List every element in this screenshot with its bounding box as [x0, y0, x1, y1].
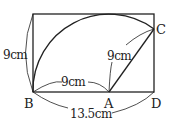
measure-BA: 9cm: [61, 75, 86, 89]
dimension-BD-right: [112, 92, 154, 113]
label-D: D: [151, 96, 161, 111]
rectangle: [33, 14, 154, 92]
measure-BD: 13.5cm: [70, 107, 113, 121]
measure-AC: 9cm: [107, 49, 132, 63]
measure-left-side: 9cm: [3, 48, 28, 62]
dimension-BD-left: [33, 92, 68, 108]
dimension-BA-left: [33, 82, 62, 92]
label-C: C: [156, 22, 166, 37]
label-B: B: [24, 96, 34, 111]
geometry-diagram: B A D C 9cm 9cm 9cm 13.5cm: [0, 0, 174, 127]
dimension-BA-right: [88, 82, 109, 92]
arc-BC: [33, 14, 154, 92]
dimension-AC-upper: [126, 29, 154, 45]
